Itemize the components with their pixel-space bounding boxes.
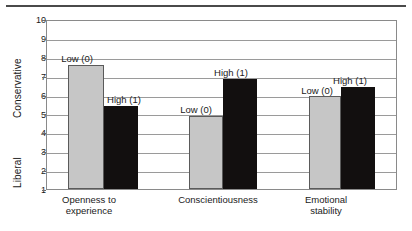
bar-label-emotional-high: High (1)	[322, 76, 378, 86]
x-category-label-emotional-stability: Emotional stability	[285, 194, 367, 216]
bar-openness-high[interactable]	[104, 106, 138, 189]
bar-conscientiousness-low[interactable]	[189, 116, 223, 189]
bar-emotional-low[interactable]	[309, 96, 341, 189]
bar-label-openness-high: High (1)	[96, 95, 152, 105]
bar-label-conscientiousness-high: High (1)	[203, 68, 259, 78]
y-tick-mark-1	[42, 190, 46, 191]
chart-figure: Conservative Liberal 10 9 8 7 6 5 4 3 2 …	[0, 0, 412, 231]
bar-openness-low[interactable]	[68, 65, 104, 189]
gridline-9	[47, 40, 396, 41]
bar-emotional-high[interactable]	[341, 87, 375, 189]
x-category-label-openness: Openness to experience	[48, 194, 130, 216]
bar-label-emotional-low: Low (0)	[289, 86, 345, 96]
bar-label-conscientiousness-low: Low (0)	[168, 105, 224, 115]
bar-label-openness-low: Low (0)	[49, 54, 105, 64]
y-axis: 10 9 8 7 6 5 4 3 2 1	[22, 20, 46, 190]
x-category-label-conscientiousness: Conscientiousness	[158, 194, 278, 205]
bar-conscientiousness-high[interactable]	[223, 79, 257, 189]
top-rule-divider	[6, 5, 406, 7]
